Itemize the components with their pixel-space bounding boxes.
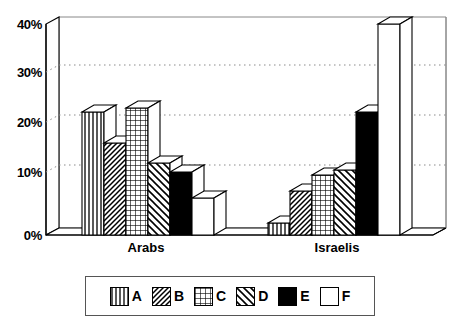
legend-item-c: C [194,287,226,306]
chart-svg [0,0,460,262]
legend-item-d: D [236,287,268,306]
legend-label-a: A [132,289,142,303]
x-label-israelis: Israelis [292,240,382,255]
legend-swatch-e [278,287,297,306]
legend-label-e: E [300,289,309,303]
plot-area: 40% 30% 20% 10% 0% Arabs Israelis [0,0,460,262]
legend-label-f: F [342,289,351,303]
y-tick-20: 20% [0,115,42,130]
legend-swatch-f [320,287,339,306]
legend-label-d: D [258,289,268,303]
legend-swatch-d [236,287,255,306]
legend-swatch-c [194,287,213,306]
y-tick-40: 40% [0,17,42,32]
chart-root: 40% 30% 20% 10% 0% Arabs Israelis A B C [0,0,460,331]
legend-label-b: B [174,289,184,303]
legend-item-f: F [320,287,351,306]
legend-item-e: E [278,287,309,306]
bar-arabs-f [192,191,226,235]
y-tick-0: 0% [0,228,42,243]
x-label-arabs: Arabs [106,240,186,255]
legend-swatch-a [110,287,129,306]
bar-israelis-f [378,17,412,235]
chart-legend: A B C D E F [85,276,375,316]
legend-item-a: A [110,287,142,306]
legend-item-b: B [152,287,184,306]
legend-label-c: C [216,289,226,303]
y-tick-10: 10% [0,165,42,180]
legend-swatch-b [152,287,171,306]
y-tick-30: 30% [0,65,42,80]
